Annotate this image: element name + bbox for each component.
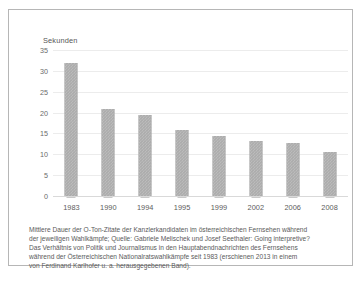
bar bbox=[323, 152, 336, 196]
y-axis-tick-label: 0 bbox=[44, 192, 48, 201]
bar-slot bbox=[311, 50, 348, 196]
x-axis-tick-label: 1983 bbox=[53, 203, 90, 212]
bar bbox=[249, 141, 262, 196]
y-axis-tick-label: 30 bbox=[40, 66, 48, 75]
y-axis-tick-label: 15 bbox=[40, 129, 48, 138]
caption-line-5: von Ferdinand Karlhofer u. a. herausgege… bbox=[29, 261, 341, 270]
x-axis-tick bbox=[127, 197, 164, 201]
plot-area: 35302520151050 1983199019941995199920022… bbox=[53, 50, 348, 196]
x-axis-tick-label: 2002 bbox=[237, 203, 274, 212]
bar-slot bbox=[237, 50, 274, 196]
bar-slot bbox=[201, 50, 238, 196]
caption-line-4: während der Österreichischen Nationalrat… bbox=[29, 252, 341, 261]
y-axis-tick-label: 10 bbox=[40, 150, 48, 159]
bar bbox=[176, 130, 189, 196]
bar bbox=[212, 136, 225, 196]
caption-line-1: Mittlere Dauer der O-Ton-Zitate der Kanz… bbox=[29, 225, 341, 234]
y-axis-tick-label: 5 bbox=[44, 171, 48, 180]
bar-slot bbox=[127, 50, 164, 196]
y-axis-tick-label: 35 bbox=[40, 46, 48, 55]
x-axis-tick-label: 1990 bbox=[90, 203, 127, 212]
x-axis-tick bbox=[311, 197, 348, 201]
caption-line-2: der jeweiligen Wahlkämpfe; Quelle: Gabri… bbox=[29, 234, 341, 243]
figure-caption: Mittlere Dauer der O-Ton-Zitate der Kanz… bbox=[29, 225, 341, 270]
bar-slot bbox=[53, 50, 90, 196]
x-axis-tick-label: 1994 bbox=[127, 203, 164, 212]
x-axis-tick bbox=[274, 197, 311, 201]
bar-slot bbox=[164, 50, 201, 196]
x-axis-tick-label: 2006 bbox=[274, 203, 311, 212]
x-axis-tick-label: 1999 bbox=[201, 203, 238, 212]
x-axis-tick-label: 2008 bbox=[311, 203, 348, 212]
x-axis-tick bbox=[201, 197, 238, 201]
bar bbox=[65, 63, 78, 196]
y-axis-tick-label: 20 bbox=[40, 108, 48, 117]
x-axis-tick bbox=[164, 197, 201, 201]
x-axis-tick bbox=[53, 197, 90, 201]
x-axis-tick-label: 1995 bbox=[164, 203, 201, 212]
caption-line-3: Das Verhältnis von Politik und Journalis… bbox=[29, 243, 341, 252]
y-axis-tick-label: 25 bbox=[40, 87, 48, 96]
x-axis-tick bbox=[90, 197, 127, 201]
bar-slot bbox=[90, 50, 127, 196]
y-axis-title: Sekunden bbox=[43, 36, 78, 45]
figure-frame: Sekunden 35302520151050 1983199019941995… bbox=[8, 9, 353, 266]
bar-slot bbox=[274, 50, 311, 196]
bar bbox=[139, 115, 152, 196]
x-axis-tick bbox=[237, 197, 274, 201]
bar bbox=[286, 143, 299, 196]
bar bbox=[102, 109, 115, 196]
